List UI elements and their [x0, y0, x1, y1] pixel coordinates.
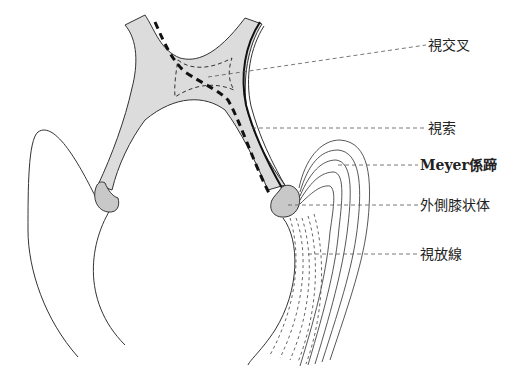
right-lateral-geniculate-body [271, 185, 300, 217]
left-lateral-geniculate-body [95, 182, 119, 212]
label-meyer-loop: Meyer係蹄 [420, 157, 497, 173]
visual-pathway-illustration [0, 0, 510, 384]
crossing-fiber-dashed [155, 22, 270, 195]
central-outline [93, 207, 125, 345]
label-optic-chiasm: 視交叉 [428, 37, 470, 53]
label-optic-tract: 視索 [428, 120, 456, 136]
label-lateral-geniculate-body: 外側膝状体 [420, 197, 490, 213]
optic-radiation-fibers [270, 214, 322, 364]
left-hemisphere-outline [28, 130, 97, 357]
meyer-loop-fibers [299, 140, 370, 366]
label-optic-radiation: 視放線 [420, 246, 462, 262]
inner-region-outline [248, 218, 295, 365]
